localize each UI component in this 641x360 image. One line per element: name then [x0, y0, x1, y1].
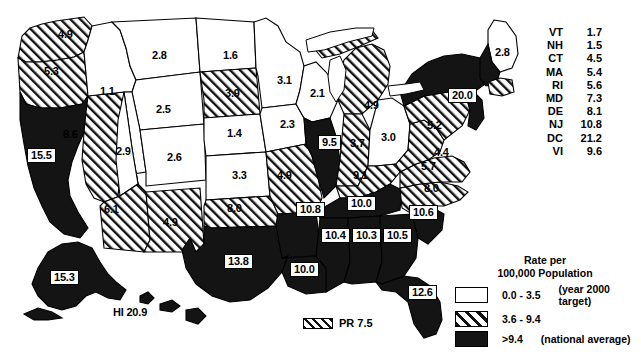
legend-label-low: 0.0 - 3.5	[502, 289, 541, 301]
legend-note-low: (year 2000 target)	[559, 283, 641, 307]
value-label-PA: 5.2	[427, 120, 442, 131]
value-label-MI: 4.9	[364, 100, 379, 111]
puerto-rico-entry: PR 7.5	[303, 317, 373, 329]
legend-title: Rate per 100,000 Population	[461, 254, 629, 279]
value-label-TX: 13.8	[224, 254, 253, 269]
legend-row-high: >9.4 (national average)	[455, 331, 641, 347]
legend-swatch-black	[455, 331, 488, 347]
state-abbr: NH	[538, 39, 563, 52]
pr-label: PR 7.5	[339, 317, 373, 329]
state-HI2	[160, 300, 180, 312]
value-label-NC: 8.0	[424, 183, 439, 194]
list-item: DE 8.1	[538, 105, 602, 118]
state-value: 5.4	[563, 66, 602, 79]
value-label-IN: 3.7	[350, 138, 365, 149]
value-label-WV: 4.4	[434, 147, 449, 158]
value-label-OH: 3.0	[381, 132, 396, 143]
value-label-WI: 2.1	[310, 88, 325, 99]
value-label-MT: 2.8	[152, 50, 167, 61]
value-label-GA: 10.5	[383, 228, 412, 243]
list-item: NH 1.5	[538, 39, 602, 52]
value-label-FL: 12.6	[408, 285, 437, 300]
state-value: 9.6	[563, 145, 602, 158]
value-label-NM: 4.9	[163, 217, 178, 228]
state-HI3	[186, 308, 206, 324]
value-label-SC: 10.6	[409, 205, 438, 220]
value-label-HI: HI 20.9	[113, 307, 147, 318]
value-label-MS: 10.4	[321, 228, 350, 243]
value-label-MN: 3.1	[277, 75, 292, 86]
legend-label-mid: 3.6 - 9.4	[502, 313, 541, 325]
value-label-WA: 4.9	[58, 29, 73, 40]
state-value: 8.1	[563, 105, 602, 118]
value-label-UT: 2.9	[116, 146, 131, 157]
value-label-TN: 10.0	[347, 196, 376, 211]
legend-note-high: (national average)	[541, 333, 631, 345]
legend-row-low: 0.0 - 3.5 (year 2000 target)	[455, 283, 641, 307]
state-AL[interactable]	[344, 216, 382, 284]
state-abbr: DE	[538, 105, 563, 118]
state-abbr: CT	[538, 52, 563, 65]
legend-swatch-white	[455, 287, 488, 303]
state-abbr: NJ	[538, 118, 563, 131]
value-label-AR: 10.8	[296, 202, 325, 217]
state-ND[interactable]	[196, 18, 256, 72]
value-label-IL: 9.5	[318, 135, 341, 150]
value-label-ND: 1.6	[223, 50, 238, 61]
list-item: VI 9.6	[538, 145, 602, 158]
value-label-CO: 2.6	[167, 152, 182, 163]
value-label-LA: 10.0	[290, 262, 319, 277]
state-abbr: RI	[538, 79, 563, 92]
value-label-NV: 8.6	[63, 129, 78, 140]
state-abbr: DC	[538, 132, 563, 145]
value-label-OK: 8.0	[227, 203, 242, 214]
value-label-AL: 10.3	[352, 228, 381, 243]
state-value: 1.5	[563, 39, 602, 52]
state-value: 5.6	[563, 79, 602, 92]
legend-label-high: >9.4	[502, 333, 523, 345]
list-item: CT 4.5	[538, 52, 602, 65]
state-abbr: MD	[538, 92, 563, 105]
state-MN[interactable]	[254, 18, 304, 108]
legend-title-line2: 100,000 Population	[461, 267, 629, 280]
state-abbr: VT	[538, 26, 563, 39]
value-label-MO: 4.9	[277, 170, 292, 181]
value-label-ME: 2.8	[495, 47, 510, 58]
state-abbr: MA	[538, 66, 563, 79]
state-value: 1.7	[563, 26, 602, 39]
list-item: RI 5.6	[538, 79, 602, 92]
value-label-AK: 15.3	[50, 270, 79, 285]
value-label-NY: 20.0	[448, 88, 477, 103]
value-label-WY: 2.5	[156, 104, 171, 115]
state-value: 7.3	[563, 92, 602, 105]
state-value: 4.5	[563, 52, 602, 65]
list-item: NJ 10.8	[538, 118, 602, 131]
pr-swatch-hatched	[303, 318, 333, 329]
map-figure: 4.9 5.3 15.5 8.6 1.1 2.8 2.5 2.9 6.1 4.9…	[0, 0, 641, 360]
value-label-SD: 3.9	[225, 88, 240, 99]
state-abbr: VI	[538, 145, 563, 158]
value-label-VA: 5.7	[421, 161, 436, 172]
value-label-ID: 1.1	[100, 86, 115, 97]
list-item: MA 5.4	[538, 66, 602, 79]
value-label-IA: 2.3	[280, 119, 295, 130]
state-AK[interactable]	[32, 242, 126, 310]
list-item: MD 7.3	[538, 92, 602, 105]
state-GA[interactable]	[376, 214, 418, 284]
value-label-KY: 9.1	[353, 170, 368, 181]
state-AR[interactable]	[276, 212, 320, 258]
legend-swatch-hatched	[455, 311, 488, 327]
state-MA-CT-RI	[488, 78, 514, 96]
state-value: 10.8	[563, 118, 602, 131]
state-WY[interactable]	[132, 72, 204, 130]
value-label-OR: 5.3	[44, 66, 59, 77]
value-label-AZ: 6.1	[104, 204, 119, 215]
legend: Rate per 100,000 Population 0.0 - 3.5 (y…	[455, 254, 641, 347]
legend-row-mid: 3.6 - 9.4	[455, 311, 641, 327]
state-AK-tail	[24, 308, 62, 320]
state-HI[interactable]	[140, 292, 154, 304]
legend-title-line1: Rate per	[461, 254, 629, 267]
value-label-NE: 1.4	[227, 128, 242, 139]
list-item: DC 21.2	[538, 132, 602, 145]
list-item: VT 1.7	[538, 26, 602, 39]
